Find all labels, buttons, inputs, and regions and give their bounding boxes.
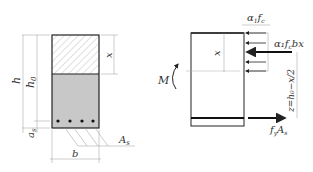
moment-arrow-icon: [172, 64, 178, 89]
label-stress: α1fc: [247, 12, 265, 24]
beam-section-diagram: h h0 as x b As x M α1fc α₁fcbx z=h₀−x/2: [0, 0, 313, 172]
label-M: M: [157, 74, 170, 87]
label-b: b: [72, 148, 78, 159]
label-lever-arm: z=h₀−x/2: [286, 69, 296, 113]
label-as: as: [25, 128, 38, 138]
cross-section: h h0 as x b As: [10, 35, 135, 163]
label-tension-force: fyAs: [269, 124, 287, 137]
beam-side-outline: [191, 33, 244, 126]
stress-diagram: x M α1fc α₁fcbx z=h₀−x/2 fyAs: [157, 12, 304, 137]
label-compression-force: α₁fcbx: [274, 38, 304, 50]
label-x-left: x: [103, 52, 114, 58]
compression-zone: [52, 35, 99, 74]
diagram-canvas: h h0 as x b As x M α1fc α₁fcbx z=h₀−x/2: [0, 0, 313, 172]
label-h: h: [10, 77, 23, 84]
label-As: As: [118, 134, 130, 147]
label-h0: h0: [24, 76, 38, 88]
label-x-right: x: [211, 50, 222, 56]
